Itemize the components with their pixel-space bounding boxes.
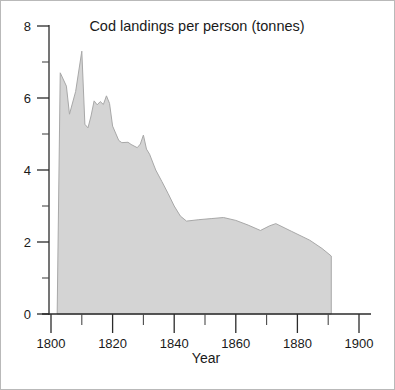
x-axis-ticks <box>51 314 359 333</box>
y-tick-label: 0 <box>24 307 31 322</box>
chart-title: Cod landings per person (tonnes) <box>89 18 304 34</box>
x-tick-label: 1840 <box>160 336 189 351</box>
area-series-cod-landings <box>57 51 331 314</box>
x-tick-label: 1900 <box>345 336 374 351</box>
x-tick-label: 1860 <box>221 336 250 351</box>
x-tick-label: 1820 <box>98 336 127 351</box>
x-tick-label: 1880 <box>283 336 312 351</box>
y-axis-tick-labels: 02468 <box>24 19 31 322</box>
y-axis-ticks <box>37 26 49 314</box>
y-tick-label: 6 <box>24 91 31 106</box>
x-axis-tick-labels: 180018201840186018801900 <box>37 336 374 351</box>
y-tick-label: 2 <box>24 235 31 250</box>
chart-canvas: 02468 180018201840186018801900 Cod landi… <box>1 1 395 390</box>
y-tick-label: 8 <box>24 19 31 34</box>
y-tick-label: 4 <box>24 163 31 178</box>
x-tick-label: 1800 <box>37 336 66 351</box>
chart-figure: 02468 180018201840186018801900 Cod landi… <box>0 0 395 390</box>
x-axis-title: Year <box>192 350 221 366</box>
